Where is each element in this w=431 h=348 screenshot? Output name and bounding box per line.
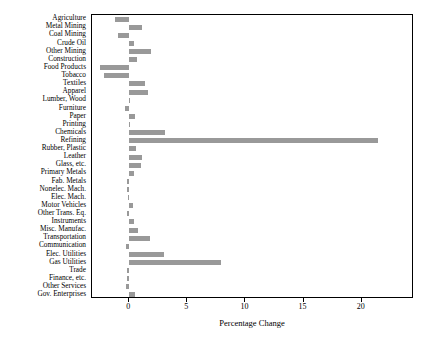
bar: [115, 17, 129, 22]
bar: [100, 65, 129, 70]
x-tick-label: 5: [184, 302, 188, 312]
bar: [129, 81, 145, 86]
bar: [129, 57, 137, 62]
bar: [127, 187, 129, 192]
bar: [128, 195, 129, 200]
bar: [129, 138, 378, 143]
bar: [129, 171, 134, 176]
bar: [127, 276, 129, 281]
bar: [129, 98, 130, 103]
category-label: Fab. Metals: [0, 177, 86, 185]
bar: [129, 236, 150, 241]
plot-area: [91, 14, 413, 298]
category-label: Communication: [0, 241, 86, 249]
bar: [129, 219, 134, 224]
bar: [129, 122, 130, 127]
bar: [127, 211, 129, 216]
bar: [129, 90, 148, 95]
bar: [118, 33, 130, 38]
bar: [126, 284, 129, 289]
x-tick-label: 20: [357, 302, 365, 312]
x-tick-label: 15: [299, 302, 307, 312]
bar: [129, 292, 135, 297]
bar: [129, 260, 221, 265]
bar: [104, 73, 130, 78]
bar: [129, 155, 142, 160]
chart-root: AgricultureMetal MiningCoal MiningCrude …: [0, 0, 431, 348]
category-label: Lumber, Wood: [0, 95, 86, 103]
category-label: Primary Metals: [0, 168, 86, 176]
bar: [129, 130, 165, 135]
bar: [129, 25, 142, 30]
category-label: Coal Mining: [0, 30, 86, 38]
bar: [126, 244, 129, 249]
x-axis-title: Percentage Change: [91, 318, 413, 328]
bar: [125, 106, 130, 111]
bar: [127, 179, 129, 184]
x-tick-label: 0: [126, 302, 130, 312]
bar: [129, 163, 141, 168]
bar: [129, 114, 135, 119]
bar: [129, 252, 164, 257]
bar: [129, 203, 132, 208]
bar: [129, 49, 151, 54]
bar: [129, 41, 134, 46]
bar: [127, 268, 129, 273]
x-tick-label: 10: [240, 302, 248, 312]
category-label-column: AgricultureMetal MiningCoal MiningCrude …: [0, 14, 86, 298]
bar: [129, 146, 136, 151]
bar: [129, 228, 138, 233]
category-label: Furniture: [0, 104, 86, 112]
category-label: Gov. Enterprises: [0, 290, 86, 298]
x-axis: 05101520: [91, 298, 413, 314]
